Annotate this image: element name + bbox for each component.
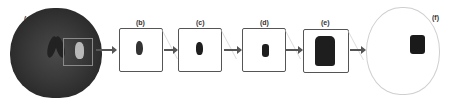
diagonal-line xyxy=(270,29,301,59)
panel-e-label: (e) xyxy=(321,19,330,26)
panel-e-box xyxy=(303,29,349,73)
arrow-a-b xyxy=(96,49,116,51)
roi-lesion xyxy=(75,42,84,59)
head-outline xyxy=(366,7,440,95)
lesion-blob xyxy=(136,41,143,55)
arrow-b-c xyxy=(164,49,177,51)
final-lesion-mask xyxy=(410,35,425,54)
panel-c-label: (c) xyxy=(196,19,205,26)
panel-f-label: (f) xyxy=(432,14,439,21)
panel-b-label: (b) xyxy=(136,19,145,26)
arrow-c-d xyxy=(224,49,241,51)
arrow-e-f xyxy=(350,49,365,51)
diagonal-line xyxy=(333,30,364,60)
lesion-blob xyxy=(315,36,335,66)
diagonal-line xyxy=(206,29,237,59)
lesion-blob xyxy=(262,44,269,57)
panel-d-label: (d) xyxy=(260,19,269,26)
panel-b-box xyxy=(119,28,163,72)
panel-d-box xyxy=(242,28,286,72)
panel-c-box xyxy=(178,28,222,72)
lesion-blob xyxy=(196,42,203,55)
arrow-d-e xyxy=(286,49,302,51)
diagonal-line xyxy=(147,29,178,59)
